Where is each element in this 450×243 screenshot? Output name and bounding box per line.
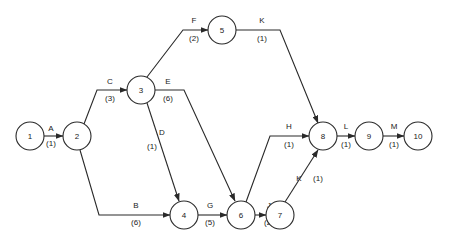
activity-name-label: B [133,201,138,210]
activity-arrow-d-3-4 [147,103,179,201]
event-node-5: 5 [208,16,236,44]
event-node-7: 7 [266,201,294,229]
activity-name-label: M [391,122,398,131]
node-number: 10 [414,132,423,141]
activity-name-label: K [296,174,302,183]
activity-duration-label: (5) [205,218,215,227]
activity-duration-label: (1) [313,174,323,183]
node-number: 3 [139,86,144,95]
event-node-9: 9 [355,122,383,150]
node-number: 2 [75,132,80,141]
activity-name-label: E [165,77,170,86]
node-number: 8 [321,132,326,141]
activity-duration-label: (6) [163,94,173,103]
node-number: 4 [182,211,187,220]
activity-name-label: C [107,77,113,86]
event-node-4: 4 [170,201,198,229]
activity-name-label: G [207,201,213,210]
event-node-2: 2 [63,122,91,150]
event-node-6: 6 [227,201,255,229]
node-number: 6 [239,211,244,220]
event-node-10: 10 [404,122,432,150]
activity-duration-label: (1) [284,140,294,149]
activity-arrows [44,30,404,215]
activity-duration-label: (1) [147,142,157,151]
activity-duration-label: (1) [46,139,56,148]
activity-arrow-e-3-6 [155,90,235,201]
activity-duration-label: (1) [257,34,267,43]
activity-duration-label: (1) [341,140,351,149]
node-number: 9 [367,132,372,141]
network-diagram: A(1)B(6)C(3)D(1)E(6)F(2)G(5)H(1)J(2)K(1)… [0,0,450,243]
event-node-8: 8 [309,122,337,150]
event-node-3: 3 [127,76,155,104]
activity-arrow-b-2-4 [80,150,170,215]
activity-duration-label: (1) [389,140,399,149]
event-node-1: 1 [16,122,44,150]
node-number: 7 [278,211,283,220]
activity-arrow-k-5-8 [236,30,318,123]
event-nodes: 12354678910 [16,16,432,229]
activity-name-label: H [286,122,292,131]
activity-name-label: D [159,128,165,137]
node-number: 5 [220,26,225,35]
activity-duration-label: (2) [189,34,199,43]
activity-name-label: A [48,124,54,133]
activity-name-label: F [192,16,197,25]
activity-arrow-h-6-8 [246,136,309,202]
activity-duration-label: (6) [131,218,141,227]
node-number: 1 [28,132,33,141]
activity-name-label: K [259,16,265,25]
activity-duration-label: (3) [105,94,115,103]
activity-labels: A(1)B(6)C(3)D(1)E(6)F(2)G(5)H(1)J(2)K(1)… [46,16,399,227]
activity-name-label: L [344,122,349,131]
